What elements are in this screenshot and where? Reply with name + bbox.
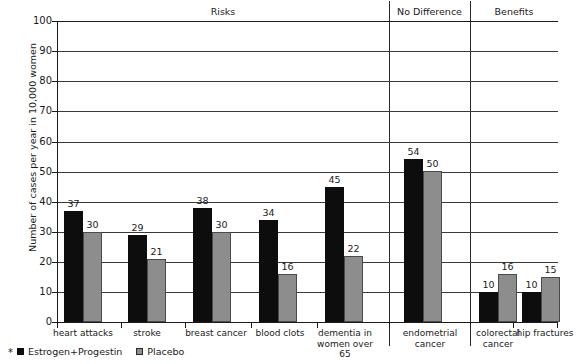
category-label-line: endometrial: [391, 328, 469, 339]
bar-value-colorectal-cancer-treatment: 10: [472, 280, 505, 290]
y-tick-mark-90: [52, 51, 57, 52]
gridline-80: [57, 81, 558, 82]
y-tick-label-0: 0: [26, 317, 52, 327]
y-axis-spine: [57, 21, 58, 323]
category-label-endometrial-cancer: endometrial cancer: [391, 328, 469, 349]
y-tick-mark-20: [52, 262, 57, 263]
bar-value-heart-attacks-treatment: 37: [57, 199, 90, 209]
gridline-60: [57, 142, 558, 143]
bar-dementia-treatment: [325, 187, 344, 322]
category-label-dementia: dementia in women over 65: [307, 328, 383, 360]
gridline-90: [57, 51, 558, 52]
bar-value-endometrial-cancer-treatment: 54: [397, 147, 430, 157]
legend-label-treatment: Estrogen+Progestin: [28, 346, 122, 357]
bar-value-endometrial-cancer-placebo: 50: [416, 159, 449, 169]
bar-value-breast-cancer-placebo: 30: [205, 220, 238, 230]
bar-endometrial-cancer-treatment: [404, 159, 423, 322]
bar-heart-attacks-placebo: [83, 232, 102, 322]
section-header-benefits: Benefits: [470, 6, 558, 17]
y-tick-label-100: 100: [26, 16, 52, 26]
bar-chart: Risks No Difference Benefits Number of c…: [0, 0, 581, 364]
band-divider-nodifference-benefits: [470, 1, 471, 346]
bar-value-stroke-placebo: 21: [140, 247, 173, 257]
axis-baseline: [57, 322, 558, 323]
bar-value-blood-clots-treatment: 34: [252, 208, 285, 218]
category-label-blood-clots: blood clots: [243, 328, 317, 339]
y-tick-label-40: 40: [26, 197, 52, 207]
bar-value-colorectal-cancer-placebo: 16: [491, 262, 524, 272]
bar-colorectal-cancer-treatment: [479, 292, 498, 322]
section-header-risks: Risks: [57, 6, 389, 17]
y-tick-label-90: 90: [26, 46, 52, 56]
y-tick-label-30: 30: [26, 227, 52, 237]
y-tick-label-20: 20: [26, 257, 52, 267]
x-tick-mark-5: [389, 323, 390, 328]
y-tick-label-10: 10: [26, 287, 52, 297]
y-tick-label-50: 50: [26, 167, 52, 177]
bar-blood-clots-placebo: [278, 274, 297, 322]
y-tick-label-70: 70: [26, 106, 52, 116]
category-label-line: dementia in: [307, 328, 383, 339]
y-tick-mark-80: [52, 81, 57, 82]
gridline-70: [57, 111, 558, 112]
gridline-50: [57, 172, 558, 173]
bar-value-hip-fractures-placebo: 15: [534, 265, 567, 275]
category-label-line: 65: [307, 349, 383, 360]
category-label-line: cancer: [470, 339, 526, 350]
bar-hip-fractures-treatment: [522, 292, 541, 322]
bar-value-heart-attacks-placebo: 30: [76, 220, 109, 230]
category-label-line: hip fractures: [512, 328, 578, 339]
gridline-40: [57, 202, 558, 203]
y-tick-mark-50: [52, 172, 57, 173]
legend-entry-treatment: * Estrogen+Progestin: [8, 346, 122, 357]
y-tick-mark-100: [52, 21, 57, 22]
gridline-100: [57, 21, 558, 22]
bar-breast-cancer-placebo: [212, 232, 231, 322]
bar-value-hip-fractures-treatment: 10: [515, 280, 548, 290]
y-tick-mark-10: [52, 292, 57, 293]
y-tick-label-80: 80: [26, 76, 52, 86]
chart-legend: * Estrogen+Progestin Placebo: [8, 346, 184, 357]
bar-value-dementia-placebo: 22: [337, 244, 370, 254]
y-tick-mark-70: [52, 111, 57, 112]
legend-swatch-placebo-icon: [136, 348, 143, 355]
bar-value-stroke-treatment: 29: [121, 223, 154, 233]
category-label-line: blood clots: [243, 328, 317, 339]
legend-swatch-treatment-icon: [17, 348, 24, 355]
category-label-line: cancer: [391, 339, 469, 350]
category-label-line: women over: [307, 339, 383, 350]
bar-stroke-placebo: [147, 259, 166, 322]
legend-label-placebo: Placebo: [147, 346, 184, 357]
section-header-no-difference: No Difference: [389, 6, 470, 17]
y-tick-mark-60: [52, 142, 57, 143]
bar-value-blood-clots-placebo: 16: [271, 262, 304, 272]
y-tick-label-60: 60: [26, 137, 52, 147]
y-tick-mark-30: [52, 232, 57, 233]
bar-endometrial-cancer-placebo: [423, 171, 442, 322]
legend-asterisk: *: [8, 348, 13, 357]
legend-entry-placebo: Placebo: [136, 346, 184, 357]
band-divider-risks-nodifference: [389, 1, 390, 346]
bar-value-dementia-treatment: 45: [318, 175, 351, 185]
bar-value-breast-cancer-treatment: 38: [186, 196, 219, 206]
bar-dementia-placebo: [344, 256, 363, 322]
category-label-hip-fractures: hip fractures: [512, 328, 578, 339]
